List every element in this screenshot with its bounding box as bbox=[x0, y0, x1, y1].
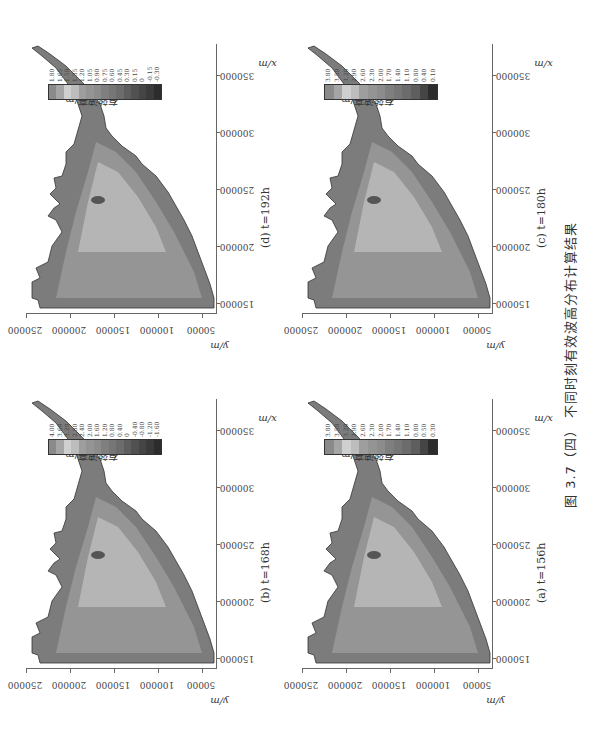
colorbar-value: 2.30 bbox=[368, 424, 375, 437]
colorbar-value: 0.30 bbox=[429, 424, 436, 437]
y-tick-mark bbox=[26, 314, 27, 318]
y-tick-label: 100000 bbox=[413, 325, 453, 335]
colorbar-swatch bbox=[402, 440, 411, 454]
island bbox=[91, 196, 105, 204]
colorbar-swatch bbox=[377, 85, 386, 99]
y-tick-label: 100000 bbox=[413, 680, 453, 690]
colorbar-swatch bbox=[139, 440, 146, 454]
colorbar-swatch bbox=[394, 85, 403, 99]
colorbar-value: 0.40 bbox=[420, 69, 427, 82]
y-tick-mark bbox=[434, 669, 435, 673]
panel-caption: (d) t=192h bbox=[259, 187, 272, 248]
x-tick-label: 300000 bbox=[217, 483, 257, 493]
colorbar-value: -0.40 bbox=[131, 422, 138, 437]
x-tick-label: 200000 bbox=[217, 597, 257, 607]
x-tick-label: 300000 bbox=[493, 483, 533, 493]
y-tick-label: 150000 bbox=[93, 325, 133, 335]
colorbar-swatch bbox=[139, 85, 146, 99]
colorbar-value: 0.90 bbox=[93, 67, 100, 82]
colorbar-swatch bbox=[359, 85, 368, 99]
y-tick-label: 150000 bbox=[369, 680, 409, 690]
colorbar-value: 1.10 bbox=[403, 424, 410, 437]
y-axis-label: y/m bbox=[486, 696, 505, 707]
colorbar-swatch bbox=[325, 85, 334, 99]
colorbar-swatch bbox=[71, 85, 78, 99]
colorbar-value: 1.70 bbox=[385, 69, 392, 82]
colorbar-swatch bbox=[394, 440, 403, 454]
colorbar-value: 0 bbox=[138, 67, 145, 82]
colorbar-values: 3.803.503.202.902.602.302.001.701.401.10… bbox=[324, 69, 436, 82]
colorbar-swatch bbox=[116, 85, 123, 99]
colorbar-swatch bbox=[124, 85, 131, 99]
x-tick-label: 200000 bbox=[217, 242, 257, 252]
x-tick-label: 300000 bbox=[493, 128, 533, 138]
colorbar-swatch bbox=[342, 440, 351, 454]
colorbar-swatch bbox=[56, 440, 63, 454]
y-tick-mark bbox=[478, 314, 479, 318]
y-tick-label: 50000 bbox=[457, 680, 497, 690]
island bbox=[367, 551, 381, 559]
colorbar-swatch bbox=[109, 85, 116, 99]
colorbar-value: 1.70 bbox=[385, 424, 392, 437]
y-tick-label: 200000 bbox=[49, 680, 89, 690]
y-tick-mark bbox=[158, 314, 159, 318]
y-tick-label: 200000 bbox=[325, 325, 365, 335]
colorbar-swatch bbox=[428, 85, 437, 99]
figure-caption: 图 3.7（四） 不同时刻有效波高分布计算结果 bbox=[560, 222, 579, 508]
colorbar-swatch bbox=[124, 440, 131, 454]
colorbar-swatch bbox=[402, 85, 411, 99]
panel-caption: (c) t=180h bbox=[535, 188, 548, 248]
y-tick-label: 50000 bbox=[181, 680, 221, 690]
colorbar-swatch bbox=[368, 440, 377, 454]
colorbar-value: 0 bbox=[123, 422, 130, 437]
colorbar-value: 2.80 bbox=[71, 422, 78, 437]
colorbar-value: 0.45 bbox=[116, 67, 123, 82]
y-axis-line bbox=[26, 313, 216, 314]
x-tick-label: 150000 bbox=[217, 299, 257, 309]
y-tick-label: 200000 bbox=[325, 680, 365, 690]
colorbar-swatch bbox=[377, 440, 386, 454]
island bbox=[91, 551, 105, 559]
y-axis-label: y/m bbox=[210, 341, 229, 352]
x-tick-label: 150000 bbox=[217, 654, 257, 664]
x-tick-label: 250000 bbox=[493, 185, 533, 195]
x-axis-line bbox=[492, 44, 493, 314]
colorbar-value: -0.30 bbox=[153, 67, 160, 82]
x-axis-line bbox=[492, 399, 493, 669]
x-axis-label: x/m bbox=[258, 59, 277, 70]
colorbar-swatch bbox=[131, 440, 138, 454]
colorbar-value: 1.05 bbox=[86, 67, 93, 82]
colorbar-value: 1.65 bbox=[56, 67, 63, 82]
colorbar-swatch bbox=[325, 440, 334, 454]
colorbar-swatch bbox=[420, 85, 429, 99]
colorbar-value: 3.80 bbox=[324, 69, 331, 82]
colorbar-value: 1.80 bbox=[48, 67, 55, 82]
colorbar-value: 0.75 bbox=[101, 67, 108, 82]
y-tick-mark bbox=[70, 314, 71, 318]
colorbar-value: 0.80 bbox=[412, 424, 419, 437]
colorbar-swatch bbox=[64, 440, 71, 454]
colorbar bbox=[48, 84, 162, 100]
colorbar-swatch bbox=[94, 440, 101, 454]
colorbar-swatch bbox=[109, 440, 116, 454]
colorbar-value: 2.00 bbox=[86, 422, 93, 437]
x-axis-label: x/m bbox=[534, 414, 553, 425]
colorbar-swatch bbox=[49, 85, 56, 99]
colorbar-value: 2.00 bbox=[377, 69, 384, 82]
colorbar-swatch bbox=[116, 440, 123, 454]
y-axis-line bbox=[302, 313, 492, 314]
y-tick-label: 100000 bbox=[137, 325, 177, 335]
x-tick-label: 250000 bbox=[493, 540, 533, 550]
colorbar-value: 1.10 bbox=[403, 69, 410, 82]
y-tick-label: 50000 bbox=[181, 325, 221, 335]
colorbar-swatch bbox=[351, 440, 360, 454]
x-axis-label: x/m bbox=[534, 59, 553, 70]
y-tick-label: 200000 bbox=[49, 325, 89, 335]
y-tick-label: 100000 bbox=[137, 680, 177, 690]
colorbar-swatch bbox=[94, 85, 101, 99]
colorbar-swatch bbox=[49, 440, 56, 454]
colorbar-legend: 有效波高/m 3.803.503.202.902.602.302.001.701… bbox=[320, 413, 440, 477]
x-axis-line bbox=[216, 399, 217, 669]
colorbar-swatch bbox=[385, 440, 394, 454]
y-tick-label: 250000 bbox=[5, 680, 45, 690]
